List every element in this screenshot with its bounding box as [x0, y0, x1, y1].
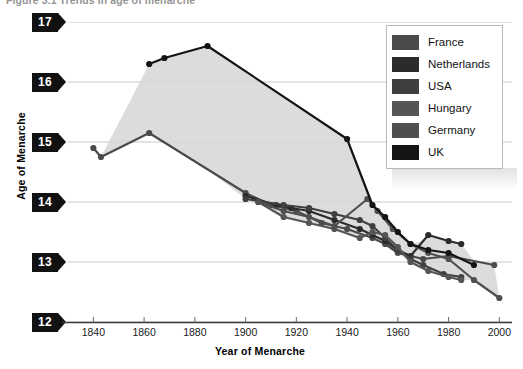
data-point — [445, 274, 451, 280]
legend-item-uk: UK — [392, 141, 498, 163]
y-tick-label: 17 — [32, 13, 58, 32]
data-point — [281, 208, 287, 214]
y-axis-title: Age of Menarche — [15, 86, 27, 226]
y-tick-arrow — [58, 73, 66, 91]
data-point — [306, 214, 312, 220]
legend-item-germany: Germany — [392, 119, 498, 141]
y-tick-arrow — [58, 253, 66, 271]
data-point — [357, 217, 363, 223]
data-point — [445, 238, 451, 244]
data-point — [369, 229, 375, 235]
legend-label: UK — [428, 146, 444, 158]
data-point — [281, 214, 287, 220]
data-point — [395, 229, 401, 235]
data-point — [395, 244, 401, 250]
data-point — [243, 196, 249, 202]
x-axis-origin-arrow — [55, 318, 62, 328]
legend-swatch-icon — [392, 101, 419, 116]
chart-legend: FranceNetherlandsUSAHungaryGermanyUK — [386, 25, 503, 169]
figure-container: Figure 3.1 Trends in age of menarche Age… — [0, 0, 523, 369]
data-point — [204, 43, 210, 49]
y-axis-tick: 17 — [32, 13, 66, 32]
data-point — [382, 232, 388, 238]
y-tick-arrow — [58, 13, 66, 31]
legend-item-netherlands: Netherlands — [392, 53, 498, 75]
legend-item-usa: USA — [392, 75, 498, 97]
data-point — [458, 241, 464, 247]
data-point — [344, 136, 350, 142]
data-point — [369, 223, 375, 229]
y-tick-arrow — [58, 133, 66, 151]
data-point — [425, 268, 431, 274]
legend-label: Netherlands — [428, 58, 490, 70]
data-point — [146, 61, 152, 67]
data-point — [445, 250, 451, 256]
data-point — [344, 226, 350, 232]
data-point — [420, 256, 426, 262]
data-point — [255, 199, 261, 205]
y-tick-arrow — [58, 193, 66, 211]
data-point — [382, 214, 388, 220]
legend-swatch-icon — [392, 145, 419, 160]
data-point — [445, 256, 451, 262]
x-axis — [0, 316, 523, 336]
y-axis-tick: 13 — [32, 253, 66, 272]
data-point — [407, 259, 413, 265]
data-point — [90, 145, 96, 151]
y-axis-tick: 15 — [32, 133, 66, 152]
legend-shadow — [392, 168, 517, 190]
legend-label: USA — [428, 80, 452, 92]
data-point — [331, 223, 337, 229]
data-point — [357, 235, 363, 241]
data-point — [357, 226, 363, 232]
legend-label: France — [428, 36, 464, 48]
data-point — [146, 130, 152, 136]
y-axis-tick: 16 — [32, 73, 66, 92]
data-point — [471, 277, 477, 283]
y-tick-label: 13 — [32, 253, 58, 272]
data-point — [471, 262, 477, 268]
legend-label: Germany — [428, 124, 475, 136]
y-tick-label: 14 — [32, 193, 58, 212]
legend-swatch-icon — [392, 35, 419, 50]
figure-title: Figure 3.1 Trends in age of menarche — [6, 0, 195, 6]
data-point — [407, 241, 413, 247]
y-axis-tick: 14 — [32, 193, 66, 212]
data-point — [369, 202, 375, 208]
y-tick-label: 16 — [32, 73, 58, 92]
x-axis-title: Year of Menarche — [60, 345, 460, 357]
data-point — [161, 55, 167, 61]
data-point — [425, 247, 431, 253]
data-point — [306, 220, 312, 226]
data-point — [425, 232, 431, 238]
legend-item-hungary: Hungary — [392, 97, 498, 119]
legend-swatch-icon — [392, 79, 419, 94]
legend-item-france: France — [392, 31, 498, 53]
data-point — [306, 205, 312, 211]
data-point — [458, 277, 464, 283]
data-point — [496, 295, 502, 301]
legend-label: Hungary — [428, 102, 471, 114]
legend-swatch-icon — [392, 57, 419, 72]
data-point — [98, 154, 104, 160]
legend-swatch-icon — [392, 123, 419, 138]
data-point — [331, 217, 337, 223]
data-point — [281, 202, 287, 208]
data-point — [331, 211, 337, 217]
data-point — [491, 262, 497, 268]
y-tick-label: 15 — [32, 133, 58, 152]
